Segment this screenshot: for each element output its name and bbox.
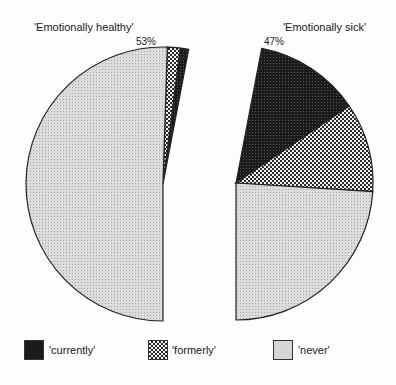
- legend-label-currently: 'currently': [49, 344, 95, 356]
- legend-swatch-never: [273, 340, 293, 360]
- pie-slice-never: [26, 47, 167, 321]
- pie-emotionally-sick: [236, 48, 373, 320]
- left-pie-title: 'Emotionally healthy': [34, 21, 134, 33]
- legend-label-formerly: 'formerly': [172, 344, 216, 356]
- right-pie-percent: 47%: [264, 36, 284, 47]
- pie-chart: [0, 0, 396, 385]
- pie-emotionally-healthy: [26, 47, 189, 321]
- legend-swatch-formerly: [148, 340, 168, 360]
- left-pie-percent: 53%: [136, 36, 156, 47]
- right-pie-title: 'Emotionally sick': [283, 21, 366, 33]
- legend-label-never: 'never': [298, 344, 330, 356]
- pie-slice-never: [236, 183, 373, 320]
- legend-swatch-currently: [24, 340, 44, 360]
